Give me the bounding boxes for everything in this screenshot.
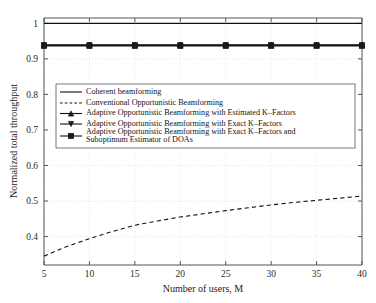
x-tick-label: 20 (176, 269, 186, 279)
y-tick-label: 0.8 (26, 90, 38, 100)
x-tick-label: 40 (357, 269, 367, 279)
x-tick-label: 30 (266, 269, 276, 279)
marker-square (68, 133, 73, 138)
y-tick-label: 0.5 (26, 196, 38, 206)
y-tick-label: 0.4 (26, 232, 38, 242)
x-tick-label: 25 (221, 269, 231, 279)
legend-label: Adaptive Opportunistic Beamforming with … (86, 108, 296, 117)
y-tick-label: 1 (33, 19, 38, 29)
marker-square (314, 43, 319, 48)
marker-square (132, 43, 137, 48)
marker-square (41, 43, 46, 48)
legend-entry[interactable]: Adaptive Opportunistic Beamforming with … (60, 108, 296, 117)
marker-square (223, 43, 228, 48)
x-tick-label: 35 (312, 269, 322, 279)
chart-legend: Coherent beamformingConventional Opportu… (56, 84, 355, 148)
marker-square (87, 43, 92, 48)
y-tick-label: 0.9 (26, 54, 38, 64)
x-tick-label: 5 (42, 269, 47, 279)
y-tick-label: 0.7 (26, 125, 38, 135)
y-axis-title: Normalized total throughput (8, 84, 19, 198)
legend-label: Coherent beamforming (86, 87, 161, 96)
x-tick-label: 10 (85, 269, 95, 279)
x-tick-label: 15 (130, 269, 140, 279)
marker-square (269, 43, 274, 48)
y-tick-label: 0.6 (26, 161, 38, 171)
marker-square (359, 43, 364, 48)
marker-square (178, 43, 183, 48)
legend-label: Conventional Opportunistic Beamforming (86, 98, 223, 107)
legend-label-line2: Suboptimum Estimator of DOAs (86, 135, 193, 144)
chart-figure: 0.40.50.60.70.80.91510152025303540 Numbe… (0, 0, 376, 303)
line-chart: 0.40.50.60.70.80.91510152025303540 Numbe… (0, 0, 376, 303)
x-axis-title: Number of users, M (163, 283, 244, 294)
